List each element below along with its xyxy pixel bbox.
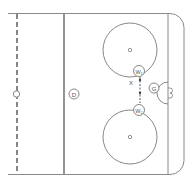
rink-diagram: D W₁ W₂ G X [0,0,193,185]
rink-boards [8,14,184,175]
movement-arrow [139,77,141,103]
player-g-label: G [152,86,157,92]
player-w2: W₂ [134,105,145,116]
player-w2-label: W₂ [135,108,142,114]
bottom-faceoff-dot [128,135,131,138]
center-faceoff-dot [13,91,19,97]
player-w1: W₁ [134,66,145,77]
end-boards [168,14,184,175]
player-d-label: D [72,92,77,98]
player-g: G [149,83,159,93]
top-faceoff-dot [128,48,131,51]
x-marker: X [129,80,133,86]
player-d: D [69,89,79,99]
player-w1-label: W₁ [135,69,142,75]
goal-net-icon [168,88,173,98]
